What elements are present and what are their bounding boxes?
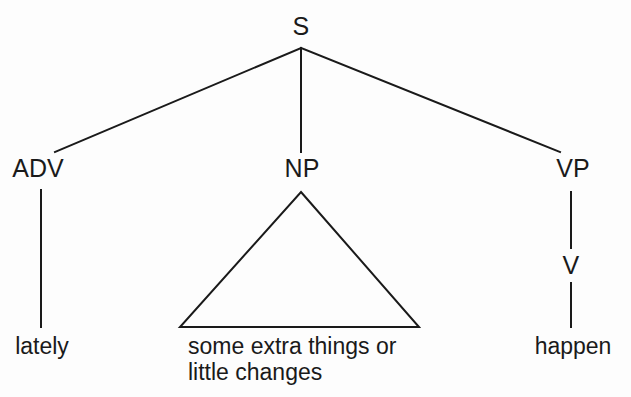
leaf-label-np-line1: some extra things or — [188, 333, 396, 360]
leaf-label-happen: happen — [535, 333, 612, 360]
leaf-label-np-line2: little changes — [188, 359, 322, 386]
np-triangle — [180, 192, 419, 327]
leaf-label-lately: lately — [15, 333, 69, 360]
syntax-tree-diagram: S ADV NP VP V lately some extra things o… — [0, 0, 631, 397]
node-label-adv: ADV — [12, 155, 64, 182]
node-label-v: V — [563, 252, 580, 279]
node-label-np: NP — [285, 155, 320, 182]
node-label-s: S — [293, 13, 310, 40]
edge-s-to-vp — [301, 48, 560, 152]
node-label-vp: VP — [556, 155, 590, 182]
edge-s-to-adv — [55, 48, 301, 152]
